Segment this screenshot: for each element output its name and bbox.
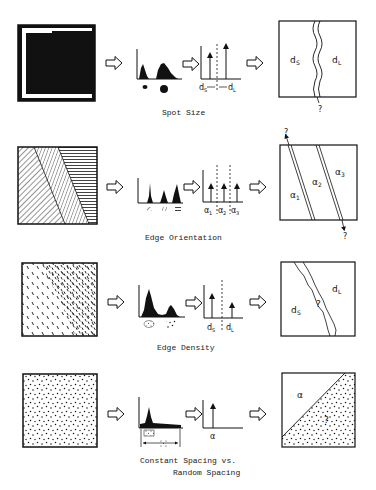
spot-size-histogram xyxy=(137,49,182,93)
svg-text:?: ? xyxy=(343,232,347,241)
orientation-segmentation-result: ? ? α 1 α 2 α 3 xyxy=(280,128,357,241)
random-spacing-icon xyxy=(160,439,168,447)
spot-size-segmentation-result: d S d L ? xyxy=(279,21,356,114)
arrow-icon xyxy=(250,408,266,421)
svg-text:d: d xyxy=(291,305,297,315)
sparse-edge-icon xyxy=(166,320,176,329)
orientation-texture-image xyxy=(18,147,97,224)
large-spot-icon xyxy=(160,85,168,93)
arrow-icon xyxy=(250,296,266,309)
svg-text:?: ? xyxy=(284,128,288,137)
steep-hatch-icon xyxy=(162,207,168,211)
arrow-icon xyxy=(186,408,202,421)
svg-text:d: d xyxy=(332,284,338,294)
arrow-icon xyxy=(108,408,124,421)
arrow-icon xyxy=(183,58,199,71)
arrow-icon xyxy=(250,181,266,194)
svg-text:?: ? xyxy=(318,105,322,114)
density-segmentation-result: d S d L ? xyxy=(281,262,355,336)
svg-text:L: L xyxy=(233,87,236,93)
constant-spacing-icon xyxy=(144,430,154,436)
caption-edge-orientation: Edge Orientation xyxy=(145,233,222,242)
svg-text:α: α xyxy=(210,432,215,441)
row-spacing: α α ? xyxy=(23,373,355,447)
density-histogram xyxy=(139,285,185,329)
small-spot-icon xyxy=(143,85,148,89)
spacing-histogram xyxy=(139,397,183,447)
arrow-icon xyxy=(107,181,123,194)
texture-segmentation-diagram: d S d L d S d L ? xyxy=(0,0,376,490)
arrow-icon xyxy=(106,57,122,70)
svg-text:S: S xyxy=(204,87,207,93)
svg-text:3: 3 xyxy=(236,210,239,216)
caption-edge-density: Edge Density xyxy=(157,343,215,352)
svg-text:1: 1 xyxy=(296,194,300,201)
svg-text:d: d xyxy=(332,55,338,65)
svg-text:2: 2 xyxy=(223,210,226,216)
arrow-icon xyxy=(247,57,263,70)
svg-text:S: S xyxy=(212,327,215,333)
spacing-segmentation-result: α ? xyxy=(282,373,355,447)
dense-edge-icon xyxy=(144,321,154,328)
row-spot-size: d S d L d S d L ? xyxy=(18,21,356,114)
caption-spacing-line1: Constant Spacing vs. xyxy=(140,456,236,465)
spacing-spike-plot: α xyxy=(203,400,243,441)
orientation-spike-plot: α 1 α 2 α 3 xyxy=(203,165,243,216)
svg-text:L: L xyxy=(231,327,234,333)
arrow-icon xyxy=(186,297,202,310)
spot-texture-image xyxy=(18,25,95,101)
spacing-texture-image xyxy=(23,374,97,447)
density-texture-image xyxy=(22,263,97,336)
density-spike-plot: d S d L xyxy=(204,280,243,333)
diagonal-hatch-icon xyxy=(147,207,152,211)
spot-size-spike-plot: d S d L xyxy=(199,44,241,93)
orientation-histogram xyxy=(138,178,183,211)
svg-text:S: S xyxy=(296,59,300,66)
arrow-icon xyxy=(184,181,200,194)
svg-text:?: ? xyxy=(324,415,329,425)
svg-text:1: 1 xyxy=(209,210,212,216)
caption-spacing-line2: Random Spacing xyxy=(173,468,240,477)
svg-text:?: ? xyxy=(316,299,321,309)
svg-text:2: 2 xyxy=(318,181,322,188)
row-edge-orientation: α 1 α 2 α 3 ? ? α 1 α 2 α 3 xyxy=(18,128,357,241)
arrow-icon xyxy=(108,296,124,309)
row-edge-density: d S d L d S d L ? xyxy=(22,262,355,336)
svg-text:S: S xyxy=(297,309,301,316)
svg-text:d: d xyxy=(290,55,296,65)
svg-text:3: 3 xyxy=(341,171,345,178)
horizontal-hatch-icon xyxy=(175,207,181,211)
caption-spot-size: Spot Size xyxy=(162,108,205,117)
svg-text:α: α xyxy=(297,390,303,400)
